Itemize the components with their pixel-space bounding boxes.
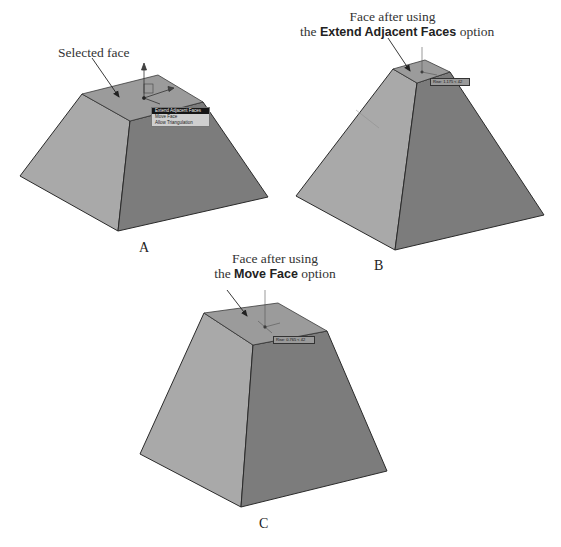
panel-label-c: C <box>259 516 268 532</box>
panel-c-frustum <box>140 290 387 507</box>
frustum-left-face <box>20 94 130 231</box>
panel-label-a: A <box>139 240 149 256</box>
dimension-tooltip: Rise: 1.175 < 42 <box>430 78 470 86</box>
panel-a-frustum <box>20 58 268 231</box>
figure-artwork <box>0 0 561 547</box>
callout-arrow-b <box>388 38 410 71</box>
panel-label-b: B <box>374 258 383 274</box>
context-menu: Extend Adjacent Faces Move Face Allow Tr… <box>151 107 210 127</box>
frustum-right-face <box>241 331 387 507</box>
menu-item-allow-triangulation[interactable]: Allow Triangulation <box>152 120 209 126</box>
pyramid-right-face <box>395 72 544 250</box>
dimension-tooltip: Rise: 0.765 < 42 <box>273 336 315 344</box>
frustum-left-face <box>140 313 253 507</box>
panel-b-pyramid <box>296 38 544 250</box>
